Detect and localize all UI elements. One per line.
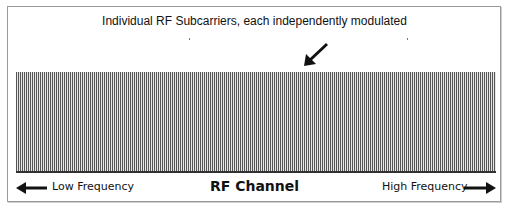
arrow-right-icon [464,182,496,194]
marker-dot [407,38,408,40]
diagram-title: Individual RF Subcarriers, each independ… [0,14,509,28]
marker-dot [189,38,190,40]
subcarrier-stripes [16,72,496,173]
high-frequency-label: High Frequency [382,180,468,193]
arrow-down-left-icon [300,40,332,70]
